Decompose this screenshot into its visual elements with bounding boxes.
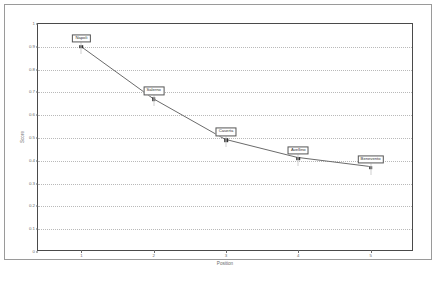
y-tick-label: 0.9 [29, 45, 35, 49]
x-tick-label: 3 [225, 254, 227, 258]
y-tick-label: 0.2 [29, 204, 35, 208]
x-tick-label: 5 [369, 254, 371, 258]
y-axis-title: Score [20, 131, 25, 143]
x-axis-title: Position [217, 261, 233, 266]
data-point-label: Benevento [357, 155, 383, 164]
y-tick-label: 0.1 [29, 227, 35, 231]
x-tick-label: 1 [80, 254, 82, 258]
x-tick-label: 2 [152, 254, 154, 258]
x-tick-label: 4 [297, 254, 299, 258]
y-tick-label: 0.6 [29, 113, 35, 117]
y-tick-label: 0.7 [29, 90, 35, 94]
data-point-label: Salerno [143, 87, 164, 96]
data-point-label: Napoli [72, 34, 90, 43]
y-tick-label: 0.5 [29, 136, 35, 140]
y-tick-label: 0.4 [29, 159, 35, 163]
y-tick-label: 0 [33, 250, 35, 254]
plot-area: 00.10.20.30.40.50.60.70.80.91 12345 Napo… [37, 23, 413, 251]
y-tick-mark [36, 252, 39, 253]
y-tick-label: 0.8 [29, 67, 35, 71]
y-tick-label: 0.3 [29, 181, 35, 185]
data-point-label: Caserta [215, 128, 236, 137]
y-tick-label: 1 [33, 22, 35, 26]
data-point-label: Avellino [288, 146, 309, 155]
chart-frame: 00.10.20.30.40.50.60.70.80.91 12345 Napo… [4, 4, 432, 260]
